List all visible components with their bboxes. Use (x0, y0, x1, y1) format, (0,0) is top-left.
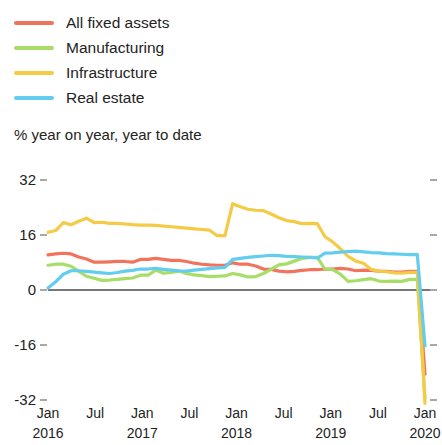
legend-item: Manufacturing (14, 35, 244, 60)
legend-label-all-fixed-assets: All fixed assets (66, 15, 169, 31)
x-axis-month-label: Jan (131, 405, 154, 421)
x-axis-month-label: Jul (86, 405, 104, 421)
chart-plot-area: 32160-16-32 Jan2016JulJan2017JulJan2018J… (0, 150, 442, 445)
x-axis-month-label: Jul (275, 405, 293, 421)
legend-item: Infrastructure (14, 60, 244, 85)
legend-swatch-all-fixed-assets (14, 21, 54, 25)
y-axis: 32160-16-32 (14, 171, 437, 408)
legend-label-manufacturing: Manufacturing (66, 40, 164, 56)
x-axis-year-label: 2018 (221, 425, 252, 441)
x-axis-month-label: Jan (319, 405, 342, 421)
legend-swatch-real-estate (14, 96, 54, 100)
legend-label-infrastructure: Infrastructure (66, 65, 157, 81)
legend-item: Real estate (14, 85, 244, 110)
x-axis-month-label: Jul (180, 405, 198, 421)
chart-legend: All fixed assets Manufacturing Infrastru… (14, 10, 244, 110)
legend-swatch-infrastructure (14, 71, 54, 75)
legend-label-real-estate: Real estate (66, 90, 144, 106)
x-axis-year-label: 2020 (409, 425, 440, 441)
x-axis-month-label: Jul (369, 405, 387, 421)
y-axis-tick-label: 32 (19, 171, 36, 188)
y-axis-tick-label: -16 (14, 336, 36, 353)
series-line-infrastructure (48, 204, 425, 404)
y-axis-tick-label: -32 (14, 391, 36, 408)
x-axis-year-label: 2019 (315, 425, 346, 441)
x-axis-month-label: Jan (37, 405, 60, 421)
legend-swatch-manufacturing (14, 46, 54, 50)
y-axis-tick-label: 0 (28, 281, 36, 298)
x-axis-year-label: 2017 (127, 425, 158, 441)
series-line-all-fixed-assets (48, 253, 425, 374)
x-axis-month-label: Jan (225, 405, 248, 421)
series-lines (48, 204, 425, 404)
chart-title: % year on year, year to date (14, 126, 202, 143)
x-axis-year-label: 2016 (32, 425, 63, 441)
x-axis: Jan2016JulJan2017JulJan2018JulJan2019Jul… (32, 405, 440, 441)
x-axis-month-label: Jan (414, 405, 437, 421)
y-axis-tick-label: 16 (19, 226, 36, 243)
line-chart-svg: 32160-16-32 Jan2016JulJan2017JulJan2018J… (0, 150, 442, 445)
legend-item: All fixed assets (14, 10, 244, 35)
series-line-manufacturing (48, 257, 425, 398)
